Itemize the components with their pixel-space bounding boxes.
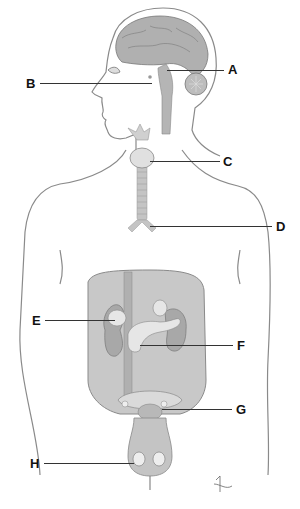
label-h: H [30, 457, 39, 470]
trachea [128, 124, 156, 232]
leader-line-b [40, 83, 152, 84]
leader-line-e [45, 320, 115, 321]
leader-line-g [162, 409, 232, 410]
testis-left [133, 452, 145, 466]
leader-line-d [150, 226, 272, 227]
label-e: E [32, 314, 41, 327]
label-a: A [228, 63, 237, 76]
testis-right [153, 452, 165, 466]
leader-line-f [140, 345, 233, 346]
label-c: C [223, 155, 232, 168]
thyroid-gland [130, 148, 154, 168]
leader-line-a [167, 70, 224, 71]
label-b: B [26, 77, 35, 90]
leader-line-c [150, 161, 220, 162]
brain [108, 16, 208, 134]
adrenal-gland-right [153, 300, 167, 316]
label-g: G [236, 403, 246, 416]
artist-signature [214, 476, 232, 492]
adrenal-gland-left [108, 310, 126, 326]
scrotum [128, 418, 172, 476]
leader-line-h [44, 463, 134, 464]
pelvis [118, 391, 182, 420]
endocrine-diagram [0, 0, 300, 509]
label-f: F [237, 339, 245, 352]
label-d: D [276, 220, 285, 233]
